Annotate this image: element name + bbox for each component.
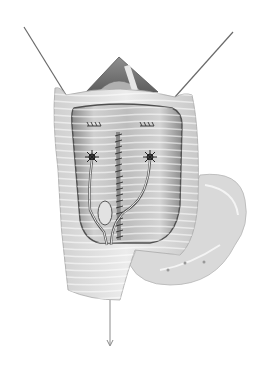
illustration-canvas	[0, 0, 269, 383]
drain-arrow	[107, 300, 113, 346]
retraction-suture-right	[175, 32, 233, 97]
surgical-illustration	[0, 0, 269, 383]
catheter-bulb	[98, 201, 112, 225]
retraction-suture-left	[24, 27, 66, 95]
